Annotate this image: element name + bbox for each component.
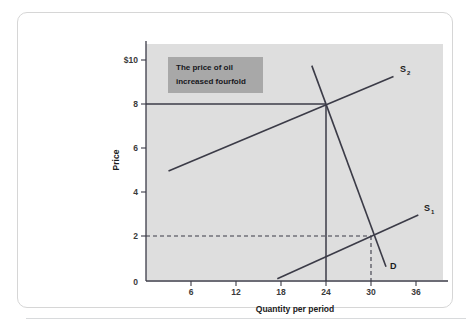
callout-line-1: The price of oil [176, 63, 233, 72]
y-tick-label-10: $10 [124, 55, 138, 65]
x-tick-label-24: 24 [321, 287, 331, 297]
supply-curve-s1-label: S [424, 203, 430, 213]
x-tick-label-6: 6 [189, 287, 194, 297]
y-axis-origin-label: 0 [133, 277, 138, 287]
supply-demand-chart: $10 8 6 4 2 0 Price 6 12 18 24 30 36 Qua… [0, 0, 471, 327]
y-tick-label-2: 2 [133, 231, 138, 241]
demand-curve-label: D [390, 261, 397, 271]
x-tick-label-30: 30 [366, 287, 376, 297]
y-tick-label-4: 4 [133, 187, 138, 197]
y-tick-label-6: 6 [133, 143, 138, 153]
x-axis-ticks [191, 281, 416, 286]
supply-curve-s2-label: S [400, 64, 406, 74]
y-tick-label-8: 8 [133, 99, 138, 109]
x-axis-title: Quantity per period [256, 304, 334, 314]
x-tick-label-18: 18 [276, 287, 286, 297]
x-tick-label-12: 12 [231, 287, 241, 297]
callout-line-2: increased fourfold [176, 77, 246, 86]
y-axis-ticks [141, 60, 146, 236]
y-axis-title: Price [111, 149, 121, 170]
chart-svg: $10 8 6 4 2 0 Price 6 12 18 24 30 36 Qua… [0, 0, 471, 327]
x-tick-label-36: 36 [411, 287, 421, 297]
